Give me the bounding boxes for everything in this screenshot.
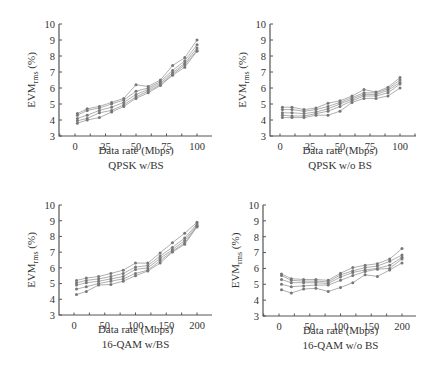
data-point — [75, 293, 78, 296]
data-point — [122, 269, 125, 272]
data-point — [135, 97, 138, 100]
data-point — [388, 260, 391, 263]
data-point — [339, 276, 342, 279]
data-point — [351, 271, 354, 274]
y-tick-label: 5 — [50, 278, 55, 289]
data-point — [401, 247, 404, 250]
data-point — [399, 83, 402, 86]
data-point — [327, 102, 330, 105]
data-point — [280, 283, 283, 286]
chart-title: QPSK w/o BS — [308, 159, 372, 171]
data-point — [281, 116, 284, 119]
data-point — [290, 285, 293, 288]
data-point — [363, 97, 366, 100]
y-axis-label: EVMrms (%) — [236, 52, 251, 108]
x-axis-label: Data rate (Mbps) — [98, 323, 173, 336]
chart-panel-qpsk_nobs: 3456789100255075100EVMrms (%)Data rate (… — [236, 19, 416, 171]
data-point — [75, 284, 78, 287]
y-tick-label: 5 — [254, 279, 259, 290]
chart-title: QPSK w/BS — [108, 159, 163, 171]
data-point — [75, 288, 78, 291]
x-tick-label: 200 — [189, 320, 205, 331]
axes — [59, 205, 212, 315]
data-point — [290, 281, 293, 284]
data-point — [122, 272, 125, 275]
data-point — [280, 274, 283, 277]
data-point — [171, 74, 174, 77]
y-tick-label: 7 — [261, 67, 266, 78]
data-point — [314, 284, 317, 287]
y-tick-label: 8 — [50, 231, 55, 242]
y-tick-label: 8 — [261, 51, 266, 62]
chart-title: 16-QAM w/BS — [102, 338, 170, 350]
x-tick-label: 0 — [72, 141, 77, 152]
chart-panel-qpsk_bs: 3456789100255075100EVMrms (%)Data rate (… — [25, 19, 212, 171]
x-axis-label: Data rate (Mbps) — [303, 324, 378, 337]
y-tick-label: 5 — [50, 99, 55, 110]
data-point — [85, 285, 88, 288]
data-point — [315, 114, 318, 117]
y-tick-label: 10 — [249, 200, 260, 211]
data-series-s1 — [77, 222, 198, 280]
data-series-s5 — [282, 263, 403, 293]
chart-title: 16-QAM w/o BS — [303, 339, 379, 351]
data-point — [183, 243, 186, 246]
data-point — [122, 105, 125, 108]
data-point — [376, 268, 379, 271]
y-tick-label: 3 — [50, 310, 55, 321]
evm-chart-grid: 3456789100255075100EVMrms (%)Data rate (… — [0, 0, 437, 379]
axes — [263, 205, 416, 316]
data-point — [314, 287, 317, 290]
data-point — [109, 272, 112, 275]
data-point — [85, 290, 88, 293]
y-tick-label: 8 — [254, 232, 259, 243]
data-point — [291, 116, 294, 119]
data-point — [401, 261, 404, 264]
y-tick-label: 10 — [45, 200, 56, 211]
data-series-s3 — [77, 48, 197, 118]
data-point — [196, 226, 199, 229]
y-tick-label: 4 — [50, 115, 56, 126]
data-point — [159, 251, 162, 254]
data-point — [388, 269, 391, 272]
chart-panel-qam16_bs: 345678910050100150200EVMrms (%)Data rate… — [25, 200, 212, 350]
data-point — [183, 66, 186, 69]
data-point — [351, 281, 354, 284]
data-point — [363, 88, 366, 91]
data-point — [376, 275, 379, 278]
x-tick-label: 0 — [71, 320, 76, 331]
y-tick-label: 7 — [254, 247, 259, 258]
data-point — [109, 283, 112, 286]
chart-panel-qam16_nobs: 345678910050100150200EVMrms (%)Data rate… — [229, 200, 416, 351]
x-tick-label: 0 — [276, 321, 281, 332]
data-point — [387, 95, 390, 98]
data-point — [327, 114, 330, 117]
data-point — [280, 278, 283, 281]
data-point — [146, 270, 149, 273]
y-tick-label: 3 — [261, 131, 266, 142]
data-point — [171, 241, 174, 244]
axes — [59, 24, 212, 136]
y-tick-label: 6 — [50, 263, 55, 274]
data-point — [86, 119, 89, 122]
y-tick-label: 4 — [254, 295, 260, 306]
data-point — [327, 290, 330, 293]
data-point — [159, 84, 162, 87]
data-point — [135, 90, 138, 93]
data-point — [110, 103, 113, 106]
data-point — [76, 122, 79, 125]
y-tick-label: 7 — [50, 247, 55, 258]
data-point — [291, 111, 294, 114]
data-point — [339, 105, 342, 108]
data-point — [327, 284, 330, 287]
data-point — [302, 281, 305, 284]
data-point — [280, 288, 283, 291]
x-tick-label: 200 — [394, 321, 410, 332]
x-tick-label: 100 — [392, 141, 408, 152]
data-point — [86, 114, 89, 117]
data-point — [339, 110, 342, 113]
data-point — [327, 110, 330, 113]
data-point — [98, 111, 101, 114]
y-tick-label: 5 — [261, 99, 266, 110]
y-tick-label: 3 — [254, 311, 259, 322]
